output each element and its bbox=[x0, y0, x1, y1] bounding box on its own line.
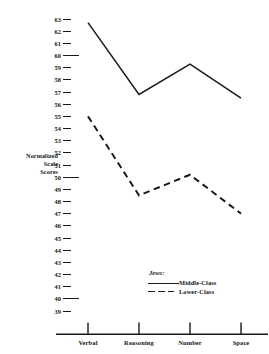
x-axis-label-group: VerbalReasoningNumberSpace bbox=[55, 339, 269, 351]
line-chart: NormalizedScaleScores 636261605958575655… bbox=[0, 0, 269, 354]
legend-swatch-solid-icon bbox=[148, 280, 179, 286]
legend-label-middle-class: Middle-Class bbox=[179, 279, 216, 287]
x-axis-tick-label: Number bbox=[178, 339, 202, 347]
legend-entry-lower-class: Lower-Class bbox=[148, 288, 240, 297]
x-axis-tick-label: Space bbox=[233, 339, 250, 347]
x-axis-tick-label: Reasoning bbox=[124, 339, 154, 347]
series-line-lower-class bbox=[88, 116, 241, 213]
chart-legend: Jews: Middle-Class Lower-Class bbox=[148, 269, 240, 297]
x-axis-tick-label: Verbal bbox=[78, 339, 97, 347]
legend-swatch-dashed-icon bbox=[148, 289, 179, 295]
series-line-middle-class bbox=[88, 23, 241, 98]
legend-title: Jews: bbox=[148, 269, 240, 277]
legend-entry-middle-class: Middle-Class bbox=[148, 279, 240, 288]
plot-area bbox=[0, 0, 269, 354]
legend-label-lower-class: Lower-Class bbox=[179, 288, 214, 296]
